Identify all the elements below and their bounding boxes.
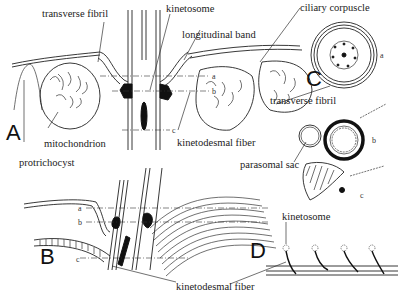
- section-marker-a: a: [212, 72, 216, 81]
- panel-b-drawing: a b c: [24, 168, 276, 282]
- panel-label-a: A: [6, 120, 21, 145]
- label-kinetodesmal-fiber-b: kinetodesmal fiber: [176, 281, 255, 292]
- svg-text:c: c: [360, 191, 364, 200]
- label-kinetosome: kinetosome: [166, 3, 215, 14]
- section-marker-c: c: [172, 126, 176, 135]
- svg-text:b: b: [78, 218, 82, 227]
- label-transverse-fibril: transverse fibril: [42, 8, 108, 19]
- label-kinetodesmal-fiber-a: kinetodesmal fiber: [177, 137, 256, 148]
- ciliary-ultrastructure-diagram: a b c a b c: [0, 0, 403, 299]
- label-kinetosome-d: kinetosome: [282, 211, 331, 222]
- panel-a-drawing: a b c: [12, 8, 312, 150]
- panel-label-b: B: [40, 244, 55, 269]
- svg-text:b: b: [372, 136, 376, 145]
- label-parasomal-sac: parasomal sac: [240, 159, 300, 170]
- label-protrichocyst: protrichocyst: [19, 157, 74, 168]
- label-longitudinal-band: longitudinal band: [182, 29, 257, 40]
- section-marker-b: b: [212, 87, 216, 96]
- label-ciliary-corpuscle: ciliary corpuscle: [300, 2, 370, 13]
- svg-text:a: a: [380, 51, 384, 60]
- label-transverse-fibril-c: transverse fibril: [270, 95, 336, 106]
- panel-label-d: D: [250, 238, 266, 263]
- label-mitochondrion: mitochondrion: [44, 138, 107, 149]
- panel-label-c: C: [306, 66, 322, 91]
- svg-text:c: c: [76, 255, 80, 264]
- svg-text:a: a: [78, 204, 82, 213]
